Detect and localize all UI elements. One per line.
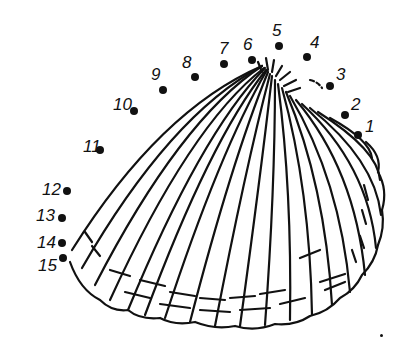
dot-4 [303, 53, 311, 61]
dot-3 [326, 82, 334, 90]
dot-number-label: 14 [37, 234, 56, 251]
stray-mark [380, 334, 383, 337]
dot-number-label: 12 [42, 181, 61, 198]
dot-number-label: 2 [351, 96, 360, 113]
dot-number-label: 4 [310, 34, 319, 51]
dot-7 [220, 60, 228, 68]
dot-12 [63, 187, 71, 195]
dot-15 [59, 254, 67, 262]
dot-5 [275, 42, 283, 50]
dot-14 [58, 239, 66, 247]
seashell-drawing [0, 0, 409, 362]
shell-outline [70, 142, 384, 329]
dot-number-label: 5 [272, 22, 281, 39]
dot-number-label: 1 [365, 118, 374, 135]
dot-2 [341, 111, 349, 119]
dot-number-label: 3 [336, 66, 345, 83]
dot-number-label: 11 [83, 138, 101, 155]
dot-9 [159, 86, 167, 94]
dot-6 [248, 56, 256, 64]
dot-number-label: 13 [36, 207, 55, 224]
dot-number-label: 8 [182, 54, 191, 71]
dot-number-label: 10 [113, 96, 132, 113]
dot-13 [58, 214, 66, 222]
dot-8 [191, 73, 199, 81]
dot-number-label: 6 [243, 36, 252, 53]
dot-number-label: 9 [151, 66, 160, 83]
dot-number-label: 15 [38, 257, 57, 274]
dot-1 [354, 131, 362, 139]
dot-number-label: 7 [219, 40, 228, 57]
